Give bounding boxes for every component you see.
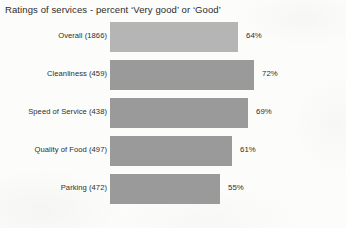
bar-value-label: 61%	[240, 145, 256, 154]
bar-cleanliness	[110, 60, 254, 90]
bar-value-label: 72%	[262, 69, 278, 78]
bar-speed-of-service	[110, 98, 248, 128]
bar-value-label: 64%	[246, 31, 262, 40]
plot-area: Overall (1866) 64% Cleanliness (459) 72%…	[0, 20, 346, 208]
category-label: Cleanliness (459)	[47, 69, 107, 78]
bar-row: Quality of Food (497) 61%	[0, 134, 346, 168]
category-label: Quality of Food (497)	[35, 145, 107, 154]
bar-row: Speed of Service (438) 69%	[0, 96, 346, 130]
bar-overall	[110, 22, 238, 52]
bar-chart-figure: Ratings of services - percent ‘Very good…	[0, 0, 346, 228]
category-label: Overall (1866)	[58, 31, 107, 40]
bar-parking	[110, 174, 220, 204]
bar-row: Cleanliness (459) 72%	[0, 58, 346, 92]
bar-row: Parking (472) 55%	[0, 172, 346, 206]
bar-value-label: 69%	[256, 107, 272, 116]
category-label: Parking (472)	[61, 183, 107, 192]
chart-title: Ratings of services - percent ‘Very good…	[5, 4, 221, 15]
category-label: Speed of Service (438)	[28, 107, 107, 116]
bar-value-label: 55%	[228, 183, 244, 192]
bar-quality-of-food	[110, 136, 232, 166]
bar-row: Overall (1866) 64%	[0, 20, 346, 54]
